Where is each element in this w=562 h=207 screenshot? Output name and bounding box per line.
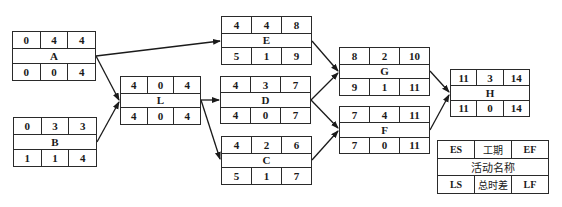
es-value: 8 xyxy=(340,48,369,64)
duration-value: 3 xyxy=(250,77,280,92)
legend-ef: EF xyxy=(511,141,548,158)
ef-value: 3 xyxy=(68,118,96,134)
duration-value: 2 xyxy=(369,48,399,64)
activity-node-b: 033 B 114 xyxy=(13,117,97,167)
arrow-g-to-h xyxy=(430,71,449,92)
activity-name: E xyxy=(222,34,311,48)
es-value: 4 xyxy=(121,77,147,93)
es-value: 0 xyxy=(14,118,41,134)
ef-value: 8 xyxy=(281,17,311,33)
total-float-value: 1 xyxy=(251,168,281,184)
activity-node-c: 426 C 517 xyxy=(221,136,312,185)
total-float-value: 0 xyxy=(250,108,280,123)
lf-value: 4 xyxy=(173,108,200,124)
es-value: 7 xyxy=(340,107,369,122)
lf-value: 11 xyxy=(399,138,429,153)
duration-value: 2 xyxy=(251,137,281,153)
lf-value: 7 xyxy=(280,108,310,123)
activity-name: H xyxy=(451,86,529,99)
duration-value: 4 xyxy=(251,17,281,33)
total-float-value: 1 xyxy=(251,48,281,64)
lf-value: 4 xyxy=(68,150,96,166)
es-value: 4 xyxy=(222,17,251,33)
activity-name: G xyxy=(340,65,429,79)
lf-value: 9 xyxy=(281,48,311,64)
ls-value: 5 xyxy=(222,48,251,64)
total-float-value: 0 xyxy=(369,138,399,153)
ef-value: 11 xyxy=(399,107,429,122)
legend-activity-name: 活动名称 xyxy=(438,159,548,174)
legend-lf: LF xyxy=(511,176,548,193)
duration-value: 3 xyxy=(41,118,69,134)
activity-name: D xyxy=(221,93,310,106)
arrow-f-to-h xyxy=(430,95,449,130)
es-value: 4 xyxy=(221,77,250,92)
lf-value: 7 xyxy=(281,168,311,184)
lf-value: 14 xyxy=(503,101,529,116)
network-diagram: 044 A 004 033 B 114 404 L 404 448 E 519 … xyxy=(0,0,562,207)
activity-name: L xyxy=(121,94,200,108)
activity-name: A xyxy=(13,49,95,63)
ls-value: 9 xyxy=(340,79,369,95)
ef-value: 14 xyxy=(503,70,529,85)
lf-value: 11 xyxy=(399,79,429,95)
total-float-value: 0 xyxy=(147,108,174,124)
activity-name: C xyxy=(222,154,311,168)
activity-node-f: 7411 F 7011 xyxy=(339,106,430,154)
duration-value: 3 xyxy=(476,70,502,85)
duration-value: 4 xyxy=(40,32,68,48)
activity-node-l: 404 L 404 xyxy=(120,76,201,125)
ef-value: 4 xyxy=(173,77,200,93)
ls-value: 4 xyxy=(121,108,147,124)
ls-value: 5 xyxy=(222,168,251,184)
activity-node-a: 044 A 004 xyxy=(12,31,96,81)
ls-value: 0 xyxy=(13,64,40,80)
legend-box: ES工期EF 活动名称 LS总时差LF xyxy=(437,140,549,194)
ls-value: 7 xyxy=(340,138,369,153)
es-value: 0 xyxy=(13,32,40,48)
es-value: 4 xyxy=(222,137,251,153)
arrow-b-to-l xyxy=(97,102,119,142)
arrow-l-to-c xyxy=(201,100,220,159)
arrow-a-to-e xyxy=(96,41,220,56)
arrow-a-to-l xyxy=(96,56,119,100)
legend-es: ES xyxy=(438,141,474,158)
activity-node-h: 11314 H 11014 xyxy=(450,69,530,117)
legend-duration: 工期 xyxy=(474,141,511,158)
total-float-value: 0 xyxy=(40,64,68,80)
arrow-d-to-f xyxy=(311,100,338,128)
activity-node-g: 8210 G 9111 xyxy=(339,47,430,96)
ef-value: 6 xyxy=(281,137,311,153)
lf-value: 4 xyxy=(67,64,95,80)
activity-name: B xyxy=(14,135,96,149)
arrow-e-to-g xyxy=(312,41,338,71)
duration-value: 0 xyxy=(147,77,174,93)
legend-total-float: 总时差 xyxy=(474,176,511,193)
ef-value: 10 xyxy=(399,48,429,64)
es-value: 11 xyxy=(451,70,476,85)
total-float-value: 0 xyxy=(476,101,502,116)
ef-value: 7 xyxy=(280,77,310,92)
ls-value: 1 xyxy=(14,150,41,166)
ef-value: 4 xyxy=(67,32,95,48)
total-float-value: 1 xyxy=(41,150,69,166)
ls-value: 4 xyxy=(221,108,250,123)
ls-value: 11 xyxy=(451,101,476,116)
legend-ls: LS xyxy=(438,176,474,193)
arrow-d-to-g xyxy=(311,73,338,100)
activity-name: F xyxy=(340,123,429,136)
activity-node-d: 437 D 407 xyxy=(220,76,311,124)
total-float-value: 1 xyxy=(369,79,399,95)
arrow-c-to-f xyxy=(312,131,338,160)
activity-node-e: 448 E 519 xyxy=(221,16,312,65)
duration-value: 4 xyxy=(369,107,399,122)
